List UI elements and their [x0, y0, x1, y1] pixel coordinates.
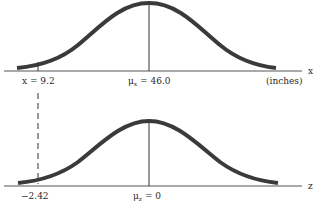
x-distribution-curve [17, 3, 276, 68]
z-mean-label: μz = 0 [133, 191, 161, 202]
z-axis-label: z [308, 181, 313, 191]
x-unit-label: (inches) [266, 76, 302, 86]
x-mean-label: μx = 46.0 [128, 76, 171, 87]
x-marker-label: x = 9.2 [22, 76, 55, 86]
bottom-panel: z −2.42 μz = 0 [4, 121, 313, 202]
z-distribution-curve [18, 121, 278, 183]
z-marker-label: −2.42 [21, 191, 49, 201]
top-panel: x x = 9.2 μx = 46.0 (inches) [4, 3, 313, 87]
normal-standardization-diagram: x x = 9.2 μx = 46.0 (inches) z −2.42 μz … [0, 0, 316, 205]
x-axis-label: x [308, 66, 313, 76]
